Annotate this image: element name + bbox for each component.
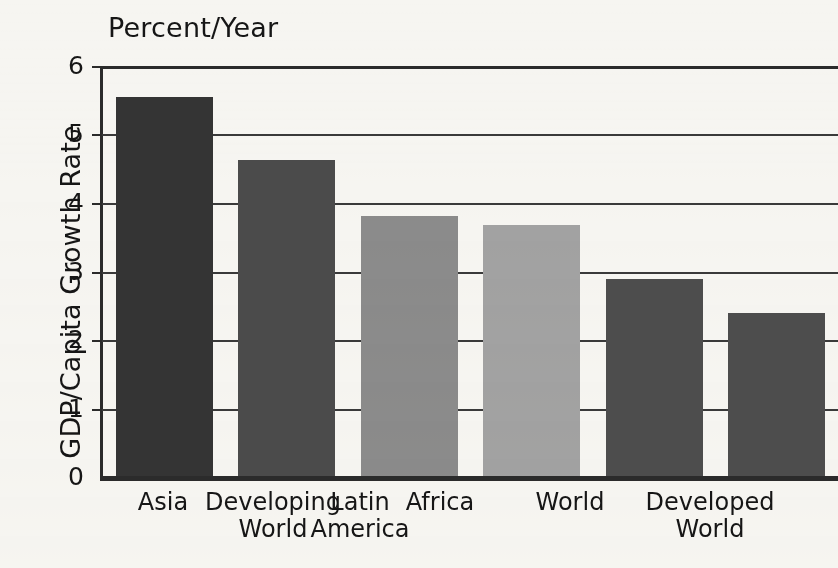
- x-label-world-line1: World: [536, 488, 605, 516]
- x-label-developed-world-line2: World: [625, 516, 795, 543]
- x-label-developed-world: Developed World: [625, 489, 795, 543]
- bars-layer: [0, 0, 838, 476]
- bar-developing-world: [238, 160, 335, 476]
- bar-africa: [483, 225, 580, 476]
- bar-world: [606, 279, 703, 476]
- x-label-africa: Africa: [365, 489, 515, 516]
- x-label-developed-world-line1: Developed: [646, 488, 775, 516]
- x-label-world: World: [505, 489, 635, 516]
- chart-figure: Percent/Year GDP/Capita Growth Rate 6 5 …: [0, 0, 838, 568]
- bar-latin-america: [361, 216, 458, 476]
- x-label-latin-america-line2: America: [290, 516, 430, 543]
- x-label-asia-line1: Asia: [138, 488, 188, 516]
- x-label-africa-line1: Africa: [406, 488, 474, 516]
- x-axis-line: [100, 476, 838, 481]
- bar-asia: [116, 97, 213, 476]
- bar-developed-world: [728, 313, 825, 476]
